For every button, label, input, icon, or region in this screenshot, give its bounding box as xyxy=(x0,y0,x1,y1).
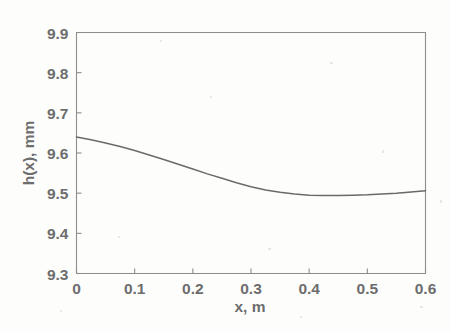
y-tick-label: 9.4 xyxy=(47,225,69,242)
y-tick-label: 9.9 xyxy=(47,25,69,42)
x-tick-label: 0.6 xyxy=(415,280,437,297)
figure-container: 00.10.20.30.40.50.6 9.39.49.59.69.79.89.… xyxy=(0,0,451,332)
x-tick-label: 0.1 xyxy=(124,280,146,297)
y-tick-label: 9.8 xyxy=(47,65,69,82)
y-tick-label: 9.7 xyxy=(47,105,69,122)
line-chart: 00.10.20.30.40.50.6 9.39.49.59.69.79.89.… xyxy=(0,0,451,332)
y-tick-label: 9.5 xyxy=(47,185,69,202)
x-tick-label: 0.3 xyxy=(240,280,262,297)
y-tick-label: 9.6 xyxy=(47,145,69,162)
x-tick-label: 0.4 xyxy=(298,280,320,297)
x-tick-label: 0.5 xyxy=(357,280,379,297)
y-axis-title: h(x), mm xyxy=(20,121,37,186)
x-tick-label: 0 xyxy=(72,280,81,297)
y-tick-label: 9.3 xyxy=(47,266,69,283)
x-tick-label: 0.2 xyxy=(182,280,204,297)
x-axis-title: x, m xyxy=(234,298,265,315)
